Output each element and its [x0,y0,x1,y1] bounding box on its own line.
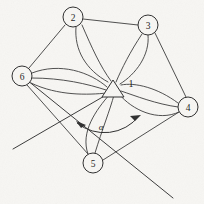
graph-canvas: α 1 2 3 4 [0,0,204,204]
node-4-label: 4 [186,103,191,113]
ray-southwest [13,91,113,149]
node-5[interactable]: 5 [83,153,103,173]
node-6-label: 6 [20,72,25,82]
node-2-label: 2 [71,13,76,23]
node-5-label: 5 [91,159,96,169]
edge-5-4 [103,112,179,160]
hub-edge-group [31,25,179,154]
angle-label: α [99,122,104,132]
edge-2-6 [29,25,65,68]
edge-6-5 [27,85,88,154]
node-1-triangle[interactable] [102,80,124,97]
node-4[interactable]: 4 [178,97,198,117]
edge-1-2-b [82,25,111,81]
node-3[interactable]: 3 [138,15,158,35]
angle-annotation-group: α [76,115,141,133]
node-1-label: 1 [129,78,134,89]
node-2[interactable]: 2 [63,7,83,27]
graph-figure: α 1 2 3 4 [0,0,204,204]
edge-1-2-a [76,27,108,82]
edge-1-3-a [116,34,142,82]
edge-1-6-a [32,68,107,87]
ray-southeast [22,76,173,198]
angle-arc [77,116,139,133]
node-3-label: 3 [146,21,151,31]
edge-1-3-b [120,35,148,84]
edge-3-4 [155,33,186,97]
edge-2-3 [83,19,138,25]
angle-arrow-end [130,115,141,121]
node-6[interactable]: 6 [12,66,32,86]
